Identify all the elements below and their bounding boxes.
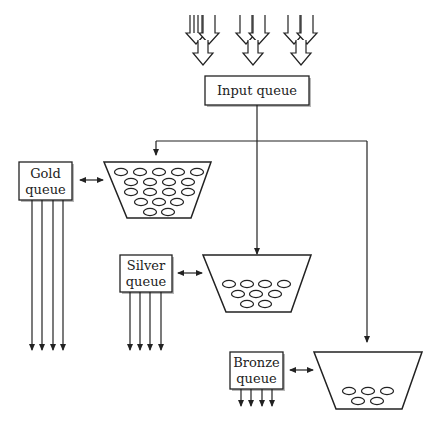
gold-queue-label-line1: Gold xyxy=(30,166,61,181)
gold-queue-label-line2: queue xyxy=(25,182,66,197)
bronze-queue-label-line1: Bronze xyxy=(233,355,280,370)
queue-diagram: Input queue Gold queue xyxy=(0,0,440,428)
bronze-output-arrows xyxy=(241,389,272,406)
bronze-queue-box: Bronze queue xyxy=(230,352,285,391)
gold-output-arrows xyxy=(32,200,63,350)
bronze-queue-label-line2: queue xyxy=(236,371,277,386)
incoming-arrow-group-1 xyxy=(186,15,219,65)
silver-queue-box: Silver queue xyxy=(120,255,174,294)
input-queue-label: Input queue xyxy=(217,83,297,98)
gold-bucket xyxy=(104,162,211,218)
incoming-arrow-group-3 xyxy=(284,15,317,65)
silver-queue-label-line1: Silver xyxy=(127,258,166,273)
input-queue-box: Input queue xyxy=(205,76,311,107)
silver-output-arrows xyxy=(130,292,161,350)
incoming-arrow-group-2 xyxy=(236,15,269,65)
gold-queue-box: Gold queue xyxy=(19,162,74,202)
silver-queue-label-line2: queue xyxy=(126,274,167,289)
bronze-bucket xyxy=(314,352,422,409)
incoming-arrows xyxy=(186,15,317,65)
silver-bucket xyxy=(203,255,311,312)
